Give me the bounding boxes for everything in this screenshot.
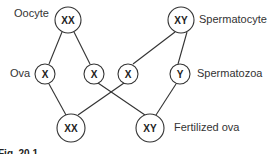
edge-oocyte-ovum2 — [74, 32, 90, 64]
node-ovum-1: X — [42, 69, 49, 80]
edge-ovum1-fert-xx — [49, 84, 66, 115]
sex-determination-diagram: XX XY X X X Y XX XY Oocyte Spermatocyte … — [0, 0, 268, 154]
label-spermatozoa: Spermatozoa — [197, 67, 262, 79]
edge-ovum2-fert-xy — [98, 83, 145, 115]
label-spermatocyte: Spermatocyte — [199, 13, 267, 25]
edge-oocyte-ovum1 — [49, 32, 62, 64]
edge-sperm-y-fert-xy — [156, 84, 176, 115]
label-ova: Ova — [10, 67, 30, 79]
edge-sperm-x-fert-xx — [78, 83, 124, 115]
label-fertilized-ova: Fertilized ova — [174, 121, 239, 133]
node-fertilized-xy: XY — [143, 123, 157, 134]
node-ovum-2: X — [91, 69, 98, 80]
figure-caption: Fig. 20.1 — [0, 148, 38, 154]
edge-spermatocyte-sperm-y — [178, 32, 187, 64]
node-fertilized-xx: XX — [64, 123, 78, 134]
edge-spermatocyte-sperm-x — [133, 32, 175, 64]
node-spermatocyte: XY — [174, 15, 188, 26]
node-sperm-x: X — [125, 69, 132, 80]
node-oocyte: XX — [61, 15, 75, 26]
label-oocyte: Oocyte — [14, 7, 49, 19]
node-sperm-y: Y — [177, 69, 184, 80]
